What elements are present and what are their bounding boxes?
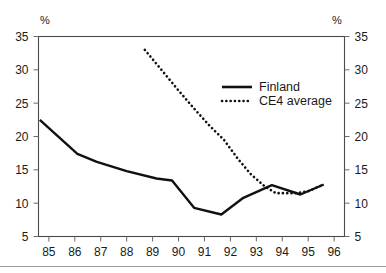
y-tick-label-right: 30	[355, 63, 369, 77]
y-axis-right: 3530252015105	[345, 30, 369, 244]
line-chart: % % 3530252015105 3530252015105 85868788…	[0, 0, 386, 273]
y-tick-label-right: 5	[355, 230, 362, 244]
x-tick-label: 96	[327, 245, 341, 259]
x-tick-label: 86	[68, 245, 82, 259]
x-tick-label: 93	[250, 245, 264, 259]
y-tick-label-right: 15	[355, 163, 369, 177]
chart-figure: % % 3530252015105 3530252015105 85868788…	[0, 0, 386, 273]
chart-legend: Finland CE4 average	[222, 80, 332, 108]
x-tick-label: 87	[94, 245, 108, 259]
right-axis-unit-label: %	[332, 14, 342, 26]
y-tick-label-right: 25	[355, 97, 369, 111]
x-axis: 858687888990919293949596	[42, 237, 341, 259]
x-tick-label: 94	[276, 245, 290, 259]
series-layer	[40, 50, 324, 215]
legend-label-ce4-average: CE4 average	[259, 94, 332, 108]
y-tick-label-left: 25	[15, 97, 29, 111]
series-ce4-average	[145, 50, 324, 193]
y-tick-label-right: 35	[355, 30, 369, 44]
left-axis-unit-label: %	[40, 14, 50, 26]
y-tick-label-left: 5	[22, 230, 29, 244]
x-tick-label: 95	[302, 245, 316, 259]
y-tick-label-right: 10	[355, 197, 369, 211]
x-tick-label: 91	[198, 245, 212, 259]
y-axis-left: 3530252015105	[15, 30, 38, 244]
x-tick-label: 90	[172, 245, 186, 259]
legend-label-finland: Finland	[259, 80, 300, 94]
y-tick-label-left: 35	[15, 30, 29, 44]
y-tick-label-left: 10	[15, 197, 29, 211]
x-tick-label: 89	[146, 245, 160, 259]
y-tick-label-left: 30	[15, 63, 29, 77]
footer-divider	[0, 266, 386, 267]
x-tick-label: 88	[120, 245, 134, 259]
x-tick-label: 85	[42, 245, 56, 259]
y-tick-label-left: 15	[15, 163, 29, 177]
series-finland	[40, 120, 324, 215]
y-tick-label-right: 20	[355, 130, 369, 144]
y-tick-label-left: 20	[15, 130, 29, 144]
x-tick-label: 92	[224, 245, 238, 259]
